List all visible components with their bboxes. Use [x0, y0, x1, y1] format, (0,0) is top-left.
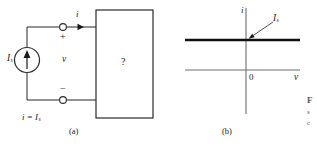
axis-label-v: v — [294, 73, 298, 83]
figure-container: Is i + v − ? i = Is (a) i v 0 Is (b) F s… — [0, 0, 317, 146]
origin-label: 0 — [249, 73, 254, 82]
iv-line-label: Is — [273, 14, 279, 24]
leader-line — [251, 22, 273, 37]
side-caption-line-3: c — [307, 119, 310, 127]
panel-b-plot-svg — [0, 0, 317, 146]
side-caption-line-2: s — [307, 108, 310, 116]
caption-panel-b: (b) — [222, 126, 232, 136]
leader-arrowhead-icon — [249, 34, 255, 39]
axis-label-i: i — [241, 6, 244, 15]
side-caption-line-1: F — [307, 95, 313, 105]
